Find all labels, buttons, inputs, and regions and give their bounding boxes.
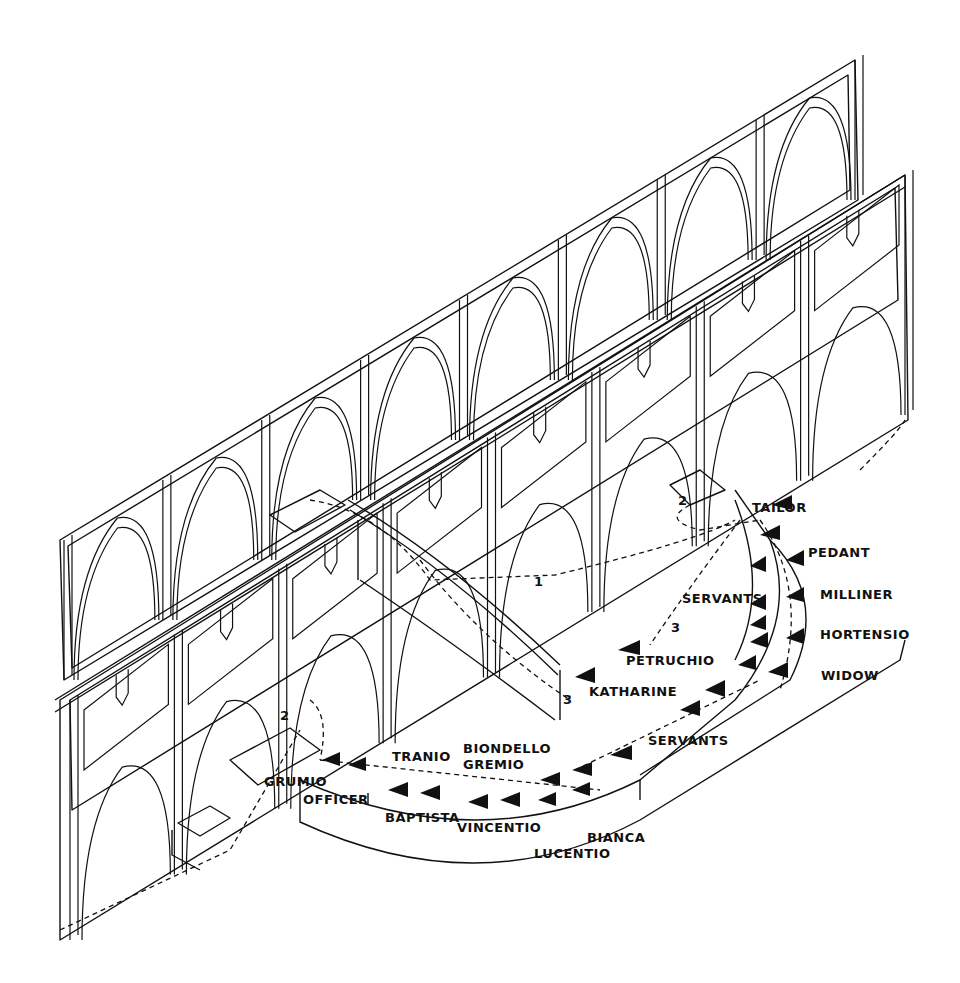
route-number-3-upper: 3	[671, 620, 680, 635]
label-servants-lower: SERVANTS	[648, 733, 729, 748]
label-biondello: BIONDELLO	[463, 741, 551, 756]
route-number-2-upper: 2	[678, 493, 687, 508]
curved-stair	[348, 500, 560, 720]
label-petruchio: PETRUCHIO	[626, 653, 715, 668]
stage-diagram: 1 2 2 3 3 TAILOR PEDANT MILLINER HORTENS…	[0, 0, 960, 983]
label-milliner: MILLINER	[820, 587, 893, 602]
label-hortensio: HORTENSIO	[820, 627, 910, 642]
rear-steps	[270, 470, 725, 532]
label-widow: WIDOW	[821, 668, 879, 683]
label-bianca: BIANCA	[587, 830, 645, 845]
label-officer: OFFICER	[303, 792, 369, 807]
route-number-3-lower: 3	[563, 692, 572, 707]
label-grumio: GRUMIO	[264, 774, 327, 789]
route-number-1: 1	[534, 574, 543, 589]
label-katharine: KATHARINE	[589, 684, 677, 699]
architecture-drawing	[0, 0, 960, 983]
label-pedant: PEDANT	[808, 545, 870, 560]
label-vincentio: VINCENTIO	[457, 820, 541, 835]
label-servants-upper: SERVANTS	[682, 591, 763, 606]
route-number-2-lower: 2	[280, 708, 289, 723]
label-tranio: TRANIO	[392, 749, 451, 764]
label-gremio: GREMIO	[463, 757, 524, 772]
label-tailor: TAILOR	[752, 500, 807, 515]
label-lucentio: LUCENTIO	[534, 846, 610, 861]
label-baptista: BAPTISTA	[385, 810, 459, 825]
left-steps	[172, 728, 320, 870]
